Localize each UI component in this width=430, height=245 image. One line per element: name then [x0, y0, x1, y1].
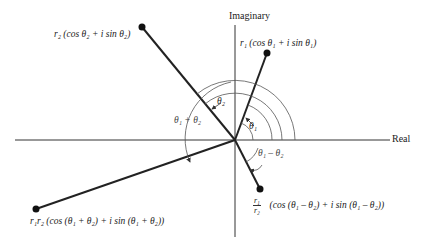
arc-theta-difference — [246, 148, 258, 162]
label-theta2: θ₂ — [217, 96, 225, 106]
label-z2: r₂ (cos θ₂ + i sin θ₂) — [54, 29, 130, 39]
point-product — [33, 206, 40, 213]
quotient-expression: (cos (θ₁ – θ₂) + i sin (θ₁ – θ₂)) — [270, 200, 385, 210]
fraction-denominator: r₂ — [254, 206, 260, 215]
label-theta-sum: θ₁ + θ₂ — [174, 115, 201, 125]
label-quotient: r₁ r₂ (cos (θ₁ – θ₂) + i sin (θ₁ – θ₂)) — [253, 196, 384, 215]
arc-theta-diff-pointer — [250, 165, 262, 170]
imaginary-axis-label: Imaginary — [229, 10, 270, 21]
fraction-numerator: r₁ — [253, 196, 261, 206]
real-axis-label: Real — [392, 133, 410, 144]
point-z2 — [139, 24, 146, 31]
quotient-fraction: r₁ r₂ — [253, 196, 261, 215]
label-z1: r₁ (cos θ₁ + i sin θ₁) — [240, 38, 316, 48]
point-z1 — [264, 50, 271, 57]
vector-quotient — [235, 140, 260, 189]
vector-product — [36, 140, 235, 209]
point-quotient — [257, 186, 264, 193]
label-theta-difference: θ₁ – θ₂ — [258, 148, 283, 158]
label-theta1: θ₁ — [249, 121, 257, 131]
label-product: r₁r₂ (cos (θ₁ + θ₂) + i sin (θ₁ + θ₂)) — [30, 216, 164, 226]
